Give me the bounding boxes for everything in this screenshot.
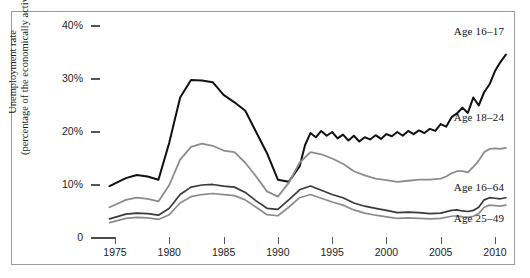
- y-tick-mark: [91, 25, 100, 27]
- series-line-age-18-24: [110, 144, 506, 208]
- x-tick-mark: [386, 237, 387, 244]
- y-tick-label: 40%: [47, 19, 83, 31]
- y-tick-mark: [91, 131, 100, 133]
- y-tick-label: 20%: [47, 125, 83, 137]
- y-tick-mark: [91, 184, 100, 186]
- y-tick-label: 0: [47, 231, 83, 243]
- x-tick-label: 1975: [95, 246, 135, 258]
- x-tick-mark: [169, 237, 170, 244]
- x-tick-mark: [495, 237, 496, 244]
- x-tick-label: 1985: [204, 246, 244, 258]
- x-tick-label: 1990: [258, 246, 298, 258]
- series-label-age-16-64: Age 16–64: [454, 181, 504, 193]
- x-tick-label: 1980: [149, 246, 189, 258]
- x-tick-mark: [115, 237, 116, 244]
- x-tick-label: 2005: [421, 246, 461, 258]
- x-tick-mark: [278, 237, 279, 244]
- series-label-age-25-49: Age 25–49: [454, 212, 504, 224]
- x-axis-origin-connector: [91, 237, 116, 239]
- figure: Unemployment rate (percentage of the eco…: [0, 0, 530, 278]
- x-tick-mark: [441, 237, 442, 244]
- x-tick-label: 2010: [475, 246, 515, 258]
- y-tick-label: 30%: [47, 72, 83, 84]
- series-label-age-18-24: Age 18–24: [454, 111, 504, 123]
- series-line-age-16-17: [110, 55, 506, 186]
- x-tick-label: 1995: [312, 246, 352, 258]
- x-tick-label: 2000: [366, 246, 406, 258]
- y-tick-label: 10%: [47, 178, 83, 190]
- x-tick-mark: [224, 237, 225, 244]
- x-tick-mark: [332, 237, 333, 244]
- series-label-age-16-17: Age 16–17: [454, 25, 504, 37]
- y-tick-mark: [91, 78, 100, 80]
